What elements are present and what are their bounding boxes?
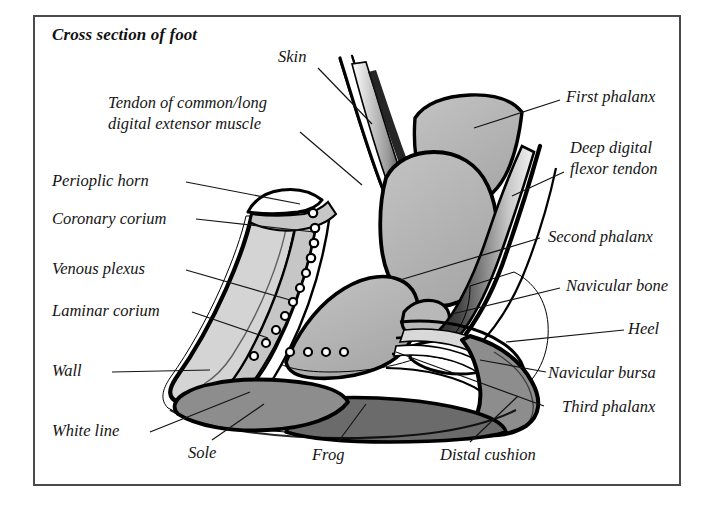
label-tendon-line-2: digital extensor muscle [108,113,308,134]
label-heel: Heel [628,318,659,339]
figure-title: Cross section of foot [52,25,197,45]
label-deep-digital-line-1: Deep digital [570,137,690,158]
label-white-line: White line [52,420,119,441]
label-sole: Sole [188,442,216,463]
label-skin: Skin [278,46,306,67]
label-deep-digital-flexor-tendon: Deep digital flexor tendon [570,137,690,179]
label-wall: Wall [52,360,82,381]
label-perioplic-horn: Perioplic horn [52,170,149,191]
label-second-phalanx: Second phalanx [548,226,653,247]
label-tendon-of-common-long-digital-extensor-muscle: Tendon of common/long digital extensor m… [108,92,308,134]
label-distal-cushion: Distal cushion [440,444,536,465]
figure-page: Cross section of foot Skin Tendon of com… [0,0,712,507]
label-first-phalanx: First phalanx [566,86,655,107]
label-frog: Frog [312,444,344,465]
label-deep-digital-line-2: flexor tendon [570,158,690,179]
label-venous-plexus: Venous plexus [52,258,145,279]
label-navicular-bursa: Navicular bursa [548,362,656,383]
label-third-phalanx: Third phalanx [562,396,655,417]
label-laminar-corium: Laminar corium [52,300,160,321]
label-coronary-corium: Coronary corium [52,208,166,229]
label-navicular-bone: Navicular bone [566,275,668,296]
label-tendon-line-1: Tendon of common/long [108,92,308,113]
